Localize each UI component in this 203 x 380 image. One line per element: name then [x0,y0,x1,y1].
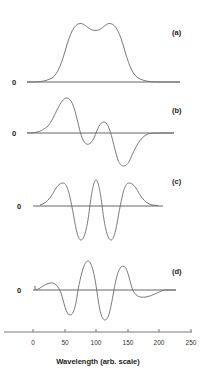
panel-d-label: (d) [172,267,182,276]
panel-d-curve [36,261,176,320]
panel-b-label: (b) [172,106,182,115]
panel-d-zero-label: 0 [17,286,21,295]
panel-b-zero-label: 0 [12,129,16,138]
x-tick-label-100: 100 [91,339,102,346]
x-axis-title: Wavelength (arb. scale) [56,357,140,366]
panel-a-zero-label: 0 [12,78,16,87]
panel-c-label: (c) [172,177,182,186]
panel-d: 0 (d) [17,261,182,320]
x-tick-label-0: 0 [31,339,35,346]
panel-a-label: (a) [172,28,182,37]
panel-b: 0 (b) [12,98,182,166]
panel-a: 0 (a) [12,23,182,87]
x-axis: 0 50 100 150 200 250 Wavelength (arb. sc… [4,329,197,366]
x-tick-label-250: 250 [186,339,197,346]
derivative-spectra-figure: 0 (a) 0 (b) 0 (c) 0 (d) 0 50 100 150 200 [0,0,203,380]
x-tick-label-200: 200 [154,339,165,346]
panel-c-curve [40,180,158,240]
panel-c-zero-label: 0 [17,202,21,211]
panel-a-curve [27,23,180,82]
panel-c: 0 (c) [17,177,182,240]
x-tick-label-50: 50 [61,339,69,346]
x-tick-label-150: 150 [123,339,134,346]
panel-b-curve [27,98,174,166]
